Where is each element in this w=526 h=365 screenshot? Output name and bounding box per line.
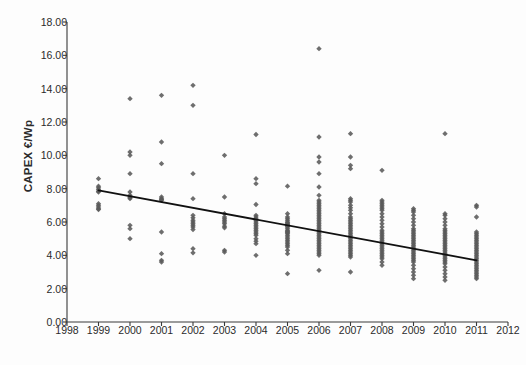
x-tick-label: 2012 — [485, 324, 526, 336]
axis-lines — [67, 22, 508, 322]
scatter-chart: CAPEX €/Wp 0.002.004.006.008.0010.0012.0… — [0, 0, 526, 365]
y-axis-tick-marks — [63, 22, 67, 322]
data-point-group — [96, 46, 479, 283]
plot-area — [0, 0, 526, 365]
x-axis-tick-labels: 1998199920002001200220032004200520062007… — [0, 324, 526, 344]
